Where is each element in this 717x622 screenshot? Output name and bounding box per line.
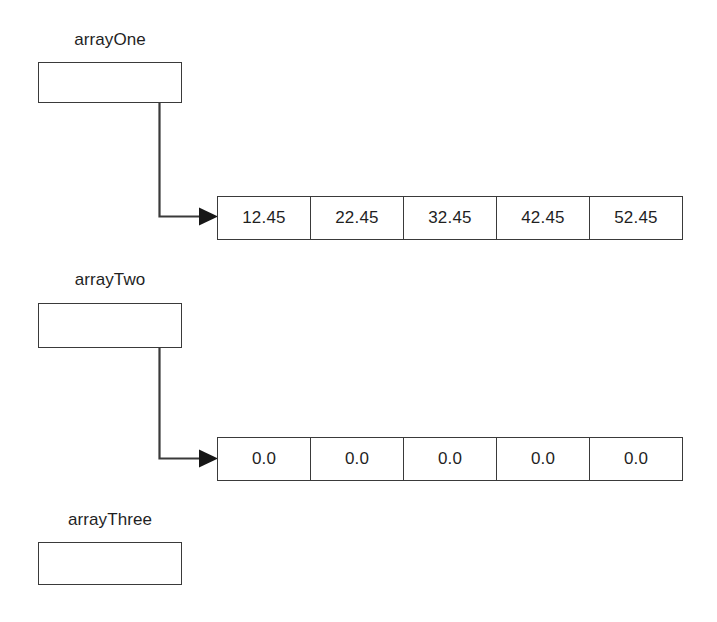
reference-box-array-two [38,303,182,348]
array-cell: 0.0 [218,438,311,480]
array-cell: 0.0 [590,438,682,480]
variable-label-array-two: arrayTwo [38,270,182,290]
array-cell: 22.45 [311,197,404,239]
reference-box-array-one [38,62,182,103]
array-array-two: 0.0 0.0 0.0 0.0 0.0 [217,437,683,481]
variable-label-array-one: arrayOne [38,30,182,50]
array-cell: 32.45 [404,197,497,239]
array-cell: 52.45 [590,197,682,239]
array-array-one: 12.45 22.45 32.45 42.45 52.45 [217,196,683,240]
array-cell: 12.45 [218,197,311,239]
variable-label-array-three: arrayThree [38,510,182,530]
array-cell: 42.45 [497,197,590,239]
array-cell: 0.0 [311,438,404,480]
array-cell: 0.0 [497,438,590,480]
reference-box-array-three [38,542,182,585]
diagram-canvas: arrayOne 12.45 22.45 32.45 42.45 52.45 a… [0,0,717,622]
array-cell: 0.0 [404,438,497,480]
